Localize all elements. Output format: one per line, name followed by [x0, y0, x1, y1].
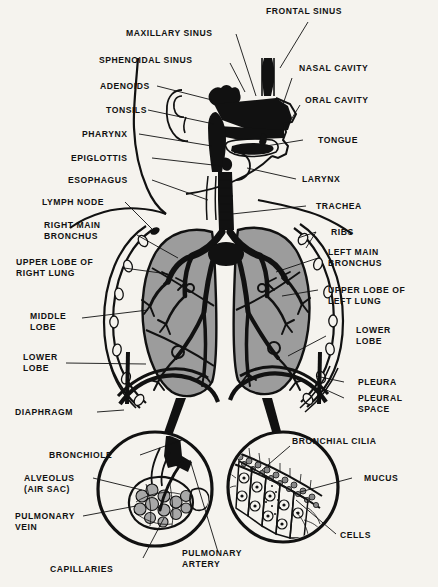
label-pharynx: PHARYNX [82, 129, 128, 139]
label-epiglottis: EPIGLOTTIS [71, 153, 128, 163]
label-larynx: LARYNX [302, 174, 340, 184]
label-lower-lobe-left-line2: LOBE [23, 363, 49, 373]
label-pleura: PLEURA [358, 377, 397, 387]
label-bronchial-cilia: BRONCHIAL CILIA [292, 436, 376, 446]
esophagus-tube-right [215, 176, 216, 220]
label-pulmonary-vein-line1: PULMONARY [15, 511, 75, 521]
label-alveolus-line2: (AIR SAC) [24, 484, 70, 494]
label-adenoids: ADENOIDS [100, 81, 150, 91]
label-pleural-space-line2: SPACE [358, 404, 390, 414]
label-lymph-node: LYMPH NODE [42, 197, 104, 207]
rib-nub [110, 316, 118, 328]
label-upper-lobe-left-line2: LEFT LUNG [328, 296, 381, 306]
label-left-main-bronchus-line2: BRONCHUS [328, 258, 382, 268]
hilum-mass [208, 242, 244, 266]
label-esophagus: ESOPHAGUS [68, 175, 128, 185]
label-tongue: TONGUE [318, 135, 358, 145]
label-alveolus-line1: ALVEOLUS [24, 473, 75, 483]
label-bronchiole: BRONCHIOLE [49, 450, 112, 460]
label-nasal-cavity: NASAL CAVITY [299, 63, 368, 73]
label-sphenoidal-sinus: SPHENOIDAL SINUS [99, 55, 193, 65]
label-frontal-sinus: FRONTAL SINUS [266, 6, 342, 16]
label-upper-lobe-right-line1: UPPER LOBE OF [16, 257, 93, 267]
label-right-main-bronchus-line1: RIGHT MAIN [44, 220, 101, 230]
label-pulmonary-vein-line2: VEIN [15, 522, 37, 532]
label-tonsils: TONSILS [106, 105, 147, 115]
rib-nub [329, 315, 337, 327]
label-capillaries: CAPILLARIES [50, 564, 113, 574]
label-middle-lobe-line1: MIDDLE [30, 311, 66, 321]
trachea-shape [218, 172, 234, 230]
label-lower-lobe-right-line1: LOWER [356, 325, 391, 335]
label-left-main-bronchus-line1: LEFT MAIN [328, 247, 379, 257]
label-trachea: TRACHEA [316, 201, 362, 211]
frontal-sinus-cavity [264, 62, 271, 84]
label-oral-cavity: ORAL CAVITY [305, 95, 369, 105]
label-right-main-bronchus-line2: BRONCHUS [44, 231, 98, 241]
label-lower-lobe-left-line1: LOWER [23, 352, 58, 362]
label-pulmonary-artery-line2: ARTERY [182, 559, 220, 569]
label-diaphragm: DIAPHRAGM [15, 407, 73, 417]
alveolus-detail-circle [98, 432, 212, 546]
label-upper-lobe-right-line2: RIGHT LUNG [16, 268, 75, 278]
label-cells: CELLS [340, 530, 371, 540]
label-pulmonary-artery-line1: PULMONARY [182, 548, 242, 558]
label-ribs: RIBS [331, 227, 354, 237]
label-mucus: MUCUS [364, 473, 398, 483]
label-maxillary-sinus: MAXILLARY SINUS [126, 28, 213, 38]
respiratory-system-diagram: FRONTAL SINUS MAXILLARY SINUS SPHENOIDAL… [0, 0, 438, 587]
label-upper-lobe-left-line1: UPPER LOBE OF [328, 285, 405, 295]
label-middle-lobe-line2: LOBE [30, 322, 56, 332]
label-pleural-space-line1: PLEURAL [358, 393, 402, 403]
label-lower-lobe-right-line2: LOBE [356, 336, 382, 346]
